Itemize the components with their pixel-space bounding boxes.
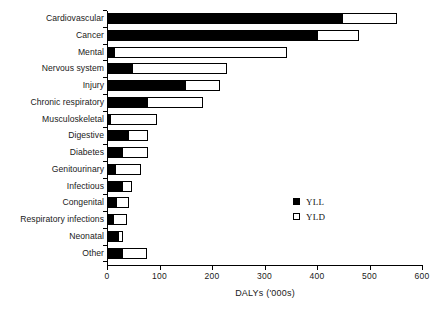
x-tick-label: 0: [105, 271, 110, 281]
x-tick-label: 600: [415, 271, 430, 281]
y-tick-mark: [103, 94, 107, 95]
dalys-stacked-bar-chart: 0100200300400500600 CardiovascularCancer…: [0, 0, 445, 328]
category-label: Genitourinary: [1, 165, 104, 174]
category-label: Injury: [1, 81, 104, 90]
x-tick-mark: [160, 266, 161, 270]
bar-segment-yll: [107, 231, 119, 242]
x-tick-mark: [212, 266, 213, 270]
bar-segment-yll: [107, 30, 318, 41]
bar-row: [107, 47, 422, 58]
y-tick-mark: [103, 144, 107, 145]
bar-row: [107, 30, 422, 41]
y-tick-mark: [103, 111, 107, 112]
y-tick-mark: [103, 178, 107, 179]
x-tick-label: 200: [205, 271, 220, 281]
bar-segment-yll: [107, 214, 114, 225]
bar-segment-yld: [107, 114, 157, 125]
category-label: Cancer: [1, 31, 104, 40]
bar-segment-yll: [107, 114, 111, 125]
x-tick-mark: [265, 266, 266, 270]
category-label: Cardiovascular: [1, 14, 104, 23]
x-tick-label: 300: [257, 271, 272, 281]
bar-row: [107, 214, 422, 225]
x-tick-mark: [317, 266, 318, 270]
legend-swatch-filled-square-icon: [293, 198, 300, 205]
x-axis-title: DALYs ('000s): [107, 288, 423, 298]
legend-item-yll: YLL: [293, 194, 325, 209]
bar-row: [107, 231, 422, 242]
legend-label-yld: YLD: [306, 212, 325, 222]
y-tick-mark: [103, 44, 107, 45]
bar-segment-yll: [107, 248, 123, 259]
chart-legend: YLL YLD: [293, 194, 325, 224]
bar-row: [107, 130, 422, 141]
x-tick-label: 100: [152, 271, 167, 281]
bar-segment-yll: [107, 197, 117, 208]
y-tick-mark: [103, 10, 107, 11]
category-label: Neonatal: [1, 232, 104, 241]
y-tick-mark: [103, 228, 107, 229]
bar-segment-yll: [107, 47, 115, 58]
y-tick-mark: [103, 194, 107, 195]
x-tick-mark: [422, 266, 423, 270]
y-tick-mark: [103, 60, 107, 61]
category-label: Mental: [1, 48, 104, 57]
category-label: Nervous system: [1, 64, 104, 73]
category-label: Chronic respiratory: [1, 98, 104, 107]
bar-row: [107, 197, 422, 208]
bar-row: [107, 164, 422, 175]
x-tick-label: 400: [310, 271, 325, 281]
bar-row: [107, 248, 422, 259]
bar-row: [107, 80, 422, 91]
x-tick-mark: [107, 266, 108, 270]
bar-row: [107, 13, 422, 24]
bar-segment-yll: [107, 181, 123, 192]
y-tick-mark: [103, 77, 107, 78]
bar-row: [107, 181, 422, 192]
legend-swatch-open-square-icon: [293, 213, 300, 220]
category-label: Digestive: [1, 131, 104, 140]
y-tick-mark: [103, 27, 107, 28]
bar-row: [107, 147, 422, 158]
bar-segment-yll: [107, 147, 123, 158]
bar-segment-yll: [107, 13, 343, 24]
bar-segment-yll: [107, 97, 148, 108]
bar-segment-yll: [107, 80, 186, 91]
y-tick-mark: [103, 161, 107, 162]
bar-segment-yll: [107, 164, 116, 175]
legend-label-yll: YLL: [306, 197, 324, 207]
category-label: Respiratory infections: [1, 215, 104, 224]
category-label: Other: [1, 249, 104, 258]
bar-row: [107, 63, 422, 74]
y-tick-mark: [103, 245, 107, 246]
legend-item-yld: YLD: [293, 209, 325, 224]
y-tick-mark: [103, 127, 107, 128]
bar-segment-yll: [107, 63, 133, 74]
category-label: Infectious: [1, 182, 104, 191]
bar-row: [107, 97, 422, 108]
category-label: Congenital: [1, 198, 104, 207]
category-label: Diabetes: [1, 148, 104, 157]
bar-segment-yll: [107, 130, 129, 141]
x-tick-mark: [370, 266, 371, 270]
y-tick-mark: [103, 261, 107, 262]
category-label: Musculoskeletal: [1, 115, 104, 124]
y-tick-mark: [103, 211, 107, 212]
bar-row: [107, 114, 422, 125]
bar-segment-yld: [107, 47, 287, 58]
x-tick-label: 500: [362, 271, 377, 281]
